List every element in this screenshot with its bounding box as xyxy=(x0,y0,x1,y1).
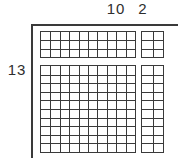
grid-cell xyxy=(97,49,106,57)
grid-cell xyxy=(116,40,125,48)
grid-cell xyxy=(50,75,59,84)
grid-cell xyxy=(142,135,153,144)
grid-cell xyxy=(41,40,50,48)
grid-cell xyxy=(79,66,88,75)
grid-cell xyxy=(50,126,59,135)
grid-cell xyxy=(88,49,97,57)
grid-cell xyxy=(60,135,69,144)
grid-cell xyxy=(116,83,125,92)
grid-cell xyxy=(97,118,106,127)
grid-block-bottom-left-10x10 xyxy=(40,65,136,153)
grid-cell xyxy=(126,143,135,152)
grid-cell xyxy=(142,143,153,152)
grid-cell xyxy=(153,49,164,57)
grid-cell xyxy=(69,100,78,109)
grid-cell xyxy=(126,66,135,75)
grid-cell xyxy=(107,49,116,57)
grid-cell xyxy=(60,32,69,40)
grid-block-bottom-right-2x10 xyxy=(141,65,164,153)
grid-cell xyxy=(88,83,97,92)
grid-cell xyxy=(153,32,164,40)
grid-cell xyxy=(50,143,59,152)
grid-cell xyxy=(126,49,135,57)
grid-cell xyxy=(97,75,106,84)
grid-cell xyxy=(69,75,78,84)
grid-cell xyxy=(50,118,59,127)
grid-cell xyxy=(79,118,88,127)
grid-cell xyxy=(126,126,135,135)
grid-cell xyxy=(142,109,153,118)
grid-cell xyxy=(50,83,59,92)
grid-cell xyxy=(126,40,135,48)
grid-cell xyxy=(88,109,97,118)
grid-cell xyxy=(79,100,88,109)
grid-cell xyxy=(88,126,97,135)
grid-cell xyxy=(41,75,50,84)
grid-cell xyxy=(153,135,164,144)
grid-cell xyxy=(142,40,153,48)
grid-cell xyxy=(142,118,153,127)
grid-cell xyxy=(88,66,97,75)
grid-cell xyxy=(41,126,50,135)
grid-cell xyxy=(79,135,88,144)
grid-cell xyxy=(116,118,125,127)
grid-cell xyxy=(153,83,164,92)
grid-cell xyxy=(126,75,135,84)
grid-cell xyxy=(107,135,116,144)
grid-cell xyxy=(79,126,88,135)
grid-cell xyxy=(79,75,88,84)
grid-cell xyxy=(142,100,153,109)
grid-cell xyxy=(153,100,164,109)
grid-cell xyxy=(107,40,116,48)
grid-cell xyxy=(97,32,106,40)
grid-cell xyxy=(69,143,78,152)
grid-cell xyxy=(116,66,125,75)
grid-cell xyxy=(97,83,106,92)
grid-cell xyxy=(126,32,135,40)
column-label-ten: 10 xyxy=(104,1,128,16)
grid-cell xyxy=(107,92,116,101)
grid-cell xyxy=(142,49,153,57)
grid-cell xyxy=(107,126,116,135)
grid-cell xyxy=(116,49,125,57)
grid-cell xyxy=(79,32,88,40)
grid-cell xyxy=(142,92,153,101)
grid-cell xyxy=(126,118,135,127)
grid-cell xyxy=(50,40,59,48)
grid-cell xyxy=(60,66,69,75)
grid-cell xyxy=(88,100,97,109)
grid-cell xyxy=(79,40,88,48)
grid-cell xyxy=(116,135,125,144)
grid-cell xyxy=(153,118,164,127)
grid-cell xyxy=(126,92,135,101)
grid-cell xyxy=(107,100,116,109)
grid-cell xyxy=(79,143,88,152)
grid-cell xyxy=(69,32,78,40)
grid-cell xyxy=(97,40,106,48)
grid-cell xyxy=(142,66,153,75)
grid-cell xyxy=(79,49,88,57)
grid-cell xyxy=(60,40,69,48)
top-bracket-line xyxy=(31,24,178,26)
grid-cell xyxy=(116,92,125,101)
grid-cell xyxy=(116,75,125,84)
grid-cell xyxy=(153,75,164,84)
grid-cell xyxy=(69,118,78,127)
grid-cell xyxy=(142,126,153,135)
grid-cell xyxy=(60,118,69,127)
grid-cell xyxy=(116,126,125,135)
grid-cell xyxy=(126,100,135,109)
grid-cell xyxy=(97,109,106,118)
grid-cell xyxy=(142,32,153,40)
grid-cell xyxy=(79,109,88,118)
grid-cell xyxy=(50,66,59,75)
grid-block-top-left-10x3 xyxy=(40,31,136,58)
grid-cell xyxy=(88,92,97,101)
left-bracket-line xyxy=(31,24,33,158)
grid-cell xyxy=(69,49,78,57)
grid-cell xyxy=(107,75,116,84)
grid-cell xyxy=(50,135,59,144)
grid-cell xyxy=(116,143,125,152)
grid-cell xyxy=(69,92,78,101)
grid-cell xyxy=(41,109,50,118)
